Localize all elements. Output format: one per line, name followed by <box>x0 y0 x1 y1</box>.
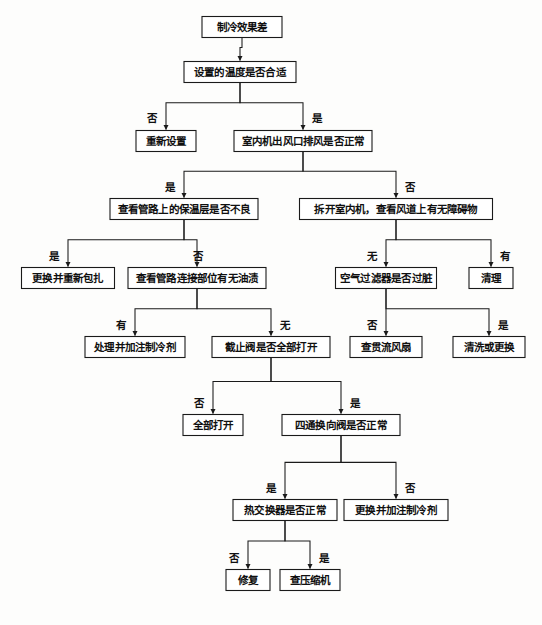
node-label: 清洗或更换 <box>464 341 516 353</box>
flow-edge <box>303 152 396 198</box>
edge-label: 否 <box>404 181 416 193</box>
edge-label: 是 <box>349 397 361 409</box>
edge-label: 否 <box>404 482 416 494</box>
flow-node: 修复 <box>226 570 270 591</box>
node-label: 修复 <box>237 574 259 586</box>
edge-layer <box>68 38 491 569</box>
flow-edge <box>386 289 489 336</box>
edge-label: 无 <box>279 319 291 331</box>
flow-edge <box>248 521 285 569</box>
edge-label: 否 <box>366 319 378 331</box>
node-label: 制冷效果差 <box>217 21 269 33</box>
node-label: 四通换向阀是否正常 <box>295 419 387 431</box>
flow-edge <box>68 220 184 267</box>
node-label: 空气过滤器是否过脏 <box>340 272 433 284</box>
flow-edge <box>240 83 303 130</box>
flow-node: 空气过滤器是否过脏 <box>336 268 437 289</box>
flow-node: 室内机出风口排风是否正常 <box>234 131 372 152</box>
node-label: 全部打开 <box>192 419 235 431</box>
edge-label: 有 <box>500 250 511 262</box>
flow-node: 制冷效果差 <box>202 17 282 38</box>
node-label: 查贯流风扇 <box>360 341 412 353</box>
flow-edge <box>197 289 271 336</box>
flow-node: 四通换向阀是否正常 <box>282 415 400 436</box>
node-label: 更换并重新包扎 <box>32 272 104 284</box>
node-label: 处理并加注制冷剂 <box>93 341 176 353</box>
flow-node: 热交换器是否正常 <box>233 500 337 521</box>
flow-edge <box>396 220 491 267</box>
edge-label: 是 <box>164 181 176 193</box>
node-label: 查看管路上的保温层是否不良 <box>117 203 251 215</box>
node-label: 查压缩机 <box>289 574 332 586</box>
edge-label: 有 <box>116 319 127 331</box>
edge-label: 是 <box>48 250 60 262</box>
edge-label: 是 <box>265 482 277 494</box>
node-label: 设置的温度是否合适 <box>194 66 287 78</box>
flow-node: 处理并加注制冷剂 <box>85 337 185 358</box>
flow-edge <box>285 521 310 569</box>
flow-node: 拆开室内机，查看风道上有无障碍物 <box>300 199 493 220</box>
node-label: 热交换器是否正常 <box>244 504 326 516</box>
flow-edge <box>166 83 240 130</box>
edge-label: 否 <box>146 112 158 124</box>
node-label: 清理 <box>481 272 502 284</box>
edge-label: 是 <box>497 319 509 331</box>
node-label: 室内机出风口排风是否正常 <box>242 135 364 147</box>
flow-edge <box>213 358 271 414</box>
flowchart-canvas: 否是是否是否无有有无否是否是是否否是 制冷效果差设置的温度是否合适重新设置室内机… <box>0 0 542 625</box>
flow-node: 查看管路上的保温层是否不良 <box>110 199 258 220</box>
edge-label: 是 <box>318 552 330 564</box>
flow-edge <box>184 152 303 198</box>
flow-node: 更换并重新包扎 <box>22 268 115 289</box>
flow-node: 清洗或更换 <box>453 337 525 358</box>
node-label: 查看管路连接部位有无油渍 <box>135 272 259 284</box>
flow-node: 全部打开 <box>183 415 243 436</box>
flow-edge <box>386 220 396 267</box>
flow-edge <box>341 436 396 499</box>
node-label: 更换并加注制冷剂 <box>355 504 437 516</box>
flow-node: 查贯流风扇 <box>350 337 422 358</box>
node-label: 截止阀是否全部打开 <box>225 341 318 353</box>
edge-label: 否 <box>228 552 240 564</box>
flow-edge <box>285 436 341 499</box>
flow-edge <box>271 358 341 414</box>
edge-label: 无 <box>366 250 378 262</box>
node-label: 拆开室内机，查看风道上有无障碍物 <box>314 203 478 215</box>
flow-node: 设置的温度是否合适 <box>184 62 296 83</box>
flow-node: 查看管路连接部位有无油渍 <box>128 268 266 289</box>
flow-node: 查压缩机 <box>280 570 340 591</box>
node-label: 重新设置 <box>146 135 188 147</box>
flow-edge <box>135 289 197 336</box>
flow-node: 截止阀是否全部打开 <box>212 337 330 358</box>
flow-node: 更换并加注制冷剂 <box>344 500 448 521</box>
edge-label: 是 <box>311 112 323 124</box>
flow-node: 清理 <box>469 268 513 289</box>
flow-edge <box>240 38 242 61</box>
flow-node: 重新设置 <box>136 131 196 152</box>
edge-label: 否 <box>193 397 205 409</box>
edge-label: 否 <box>192 250 204 262</box>
